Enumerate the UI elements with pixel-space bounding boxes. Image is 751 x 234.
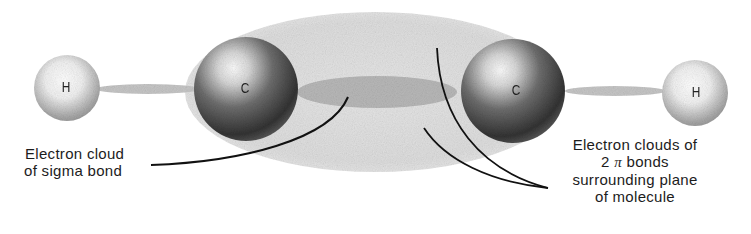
sigma-bond-cloud [297,76,457,108]
sigma-label-line-2: of sigma bond [24,162,124,179]
pi-label-bonds: bonds [627,153,669,170]
molecule-diagram: H C C H Electron cloud of sigma bond Ele… [0,0,751,234]
sigma-label-line-1: Electron cloud [25,145,124,162]
pi-bond-label: Electron clouds of 2 π bonds surrounding… [560,136,710,205]
sigma-bond-h-c-left [96,84,200,94]
atom-label-h-left: H [62,79,71,95]
pi-label-line-2: 2 π bonds [560,153,710,171]
atom-label-c-right: C [512,82,521,98]
pi-bond-count: 2 [601,153,610,170]
sigma-bond-c-h-right [565,86,665,96]
sigma-bond-label: Electron cloud of sigma bond [25,145,124,179]
pi-label-line-4: of molecule [560,188,710,205]
pi-label-line-1: Electron clouds of [560,136,710,153]
pi-symbol: π [614,154,622,170]
atom-label-h-right: H [692,84,701,100]
pi-label-line-3: surrounding plane [560,171,710,188]
atom-label-c-left: C [241,80,250,96]
